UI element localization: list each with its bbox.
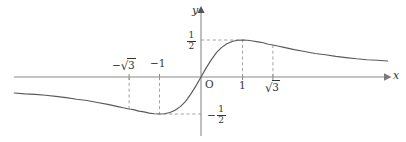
origin-label: O bbox=[205, 79, 214, 90]
sqrt-icon: √3 bbox=[265, 80, 280, 94]
x-axis-label: x bbox=[393, 70, 399, 81]
tick-label-neg-half: − 1 2 bbox=[207, 105, 226, 126]
radicand: 3 bbox=[127, 58, 135, 71]
minus-sign: − bbox=[112, 59, 121, 71]
fraction-one-half: 1 2 bbox=[187, 31, 196, 52]
y-axis-label: y bbox=[192, 5, 198, 16]
y-axis-arrowhead bbox=[197, 6, 204, 13]
tick-label-neg-one: −1 bbox=[150, 58, 165, 69]
negative-one-half: − 1 2 bbox=[207, 105, 226, 126]
plot-svg bbox=[0, 0, 406, 142]
minus-sign: − bbox=[207, 110, 216, 121]
tick-label-neg-sqrt3: −√3 bbox=[112, 58, 136, 72]
fraction-one-half: 1 2 bbox=[217, 105, 226, 126]
x-axis-arrowhead bbox=[384, 73, 392, 81]
y-axis bbox=[197, 6, 204, 136]
sqrt-icon: √3 bbox=[121, 58, 136, 72]
tick-label-half: 1 2 bbox=[187, 31, 196, 52]
tick-label-one: 1 bbox=[239, 80, 246, 91]
function-graph-figure: y x O −√3 −1 1 √3 1 2 − 1 2 bbox=[0, 0, 406, 142]
radicand: 3 bbox=[272, 80, 280, 93]
tick-label-sqrt3: √3 bbox=[265, 80, 280, 94]
